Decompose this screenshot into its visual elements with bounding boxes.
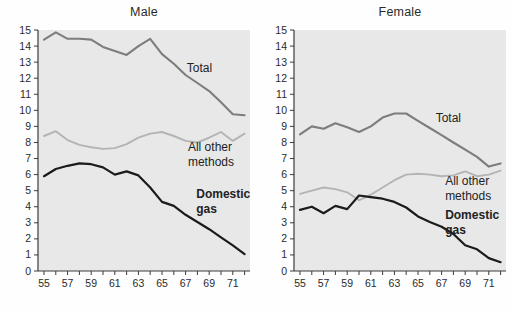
y-tick-label: 5 <box>25 184 31 196</box>
x-tick-label: 61 <box>109 277 121 289</box>
annotation-total: Total <box>436 111 461 125</box>
x-tick-label: 55 <box>294 277 306 289</box>
y-tick-label: 0 <box>25 265 31 277</box>
male-panel: Male 01234567891011121314155557596163656… <box>0 0 256 312</box>
y-tick-label: 8 <box>281 136 287 148</box>
y-tick-label: 14 <box>19 40 31 52</box>
y-tick-label: 15 <box>275 24 287 36</box>
x-tick-label: 63 <box>389 277 401 289</box>
y-tick-label: 4 <box>281 200 287 212</box>
annotation-all-other-methods: All othermethods <box>445 174 491 203</box>
x-tick-label: 65 <box>156 277 168 289</box>
x-tick-label: 63 <box>133 277 145 289</box>
y-tick-label: 3 <box>281 216 287 228</box>
x-tick-label: 67 <box>180 277 192 289</box>
y-tick-label: 12 <box>275 72 287 84</box>
y-tick-label: 8 <box>25 136 31 148</box>
x-tick-label: 69 <box>203 277 215 289</box>
y-tick-label: 13 <box>275 56 287 68</box>
x-tick-label: 57 <box>318 277 330 289</box>
y-tick-label: 15 <box>19 24 31 36</box>
x-tick-label: 69 <box>459 277 471 289</box>
x-tick-label: 59 <box>341 277 353 289</box>
y-tick-label: 9 <box>281 120 287 132</box>
plot-area <box>294 30 506 271</box>
y-tick-label: 9 <box>25 120 31 132</box>
y-tick-label: 10 <box>19 104 31 116</box>
suicide-rates-figure: Male 01234567891011121314155557596163656… <box>0 0 512 312</box>
y-tick-label: 2 <box>25 232 31 244</box>
x-tick-label: 55 <box>38 277 50 289</box>
y-tick-label: 0 <box>281 265 287 277</box>
female-panel: Female 012345678910111213141555575961636… <box>256 0 512 312</box>
y-tick-label: 11 <box>276 88 287 100</box>
x-tick-label: 57 <box>62 277 74 289</box>
x-tick-label: 61 <box>365 277 377 289</box>
y-tick-label: 12 <box>19 72 31 84</box>
x-tick-label: 67 <box>436 277 448 289</box>
female-chart-canvas: 0123456789101112131415555759616365676971… <box>256 0 512 312</box>
y-tick-label: 7 <box>25 152 31 164</box>
x-tick-label: 71 <box>483 277 495 289</box>
y-tick-label: 14 <box>275 40 287 52</box>
annotation-all-other-methods: All othermethods <box>188 140 234 169</box>
x-tick-label: 65 <box>412 277 424 289</box>
y-tick-label: 1 <box>281 248 287 260</box>
x-tick-label: 59 <box>85 277 97 289</box>
male-chart-canvas: 0123456789101112131415555759616365676971… <box>0 0 256 312</box>
y-tick-label: 1 <box>25 248 31 260</box>
y-tick-label: 2 <box>281 232 287 244</box>
y-tick-label: 4 <box>25 200 31 212</box>
y-tick-label: 10 <box>275 104 287 116</box>
x-tick-label: 71 <box>227 277 239 289</box>
y-tick-label: 13 <box>19 56 31 68</box>
y-tick-label: 7 <box>281 152 287 164</box>
y-tick-label: 5 <box>281 184 287 196</box>
annotation-total: Total <box>187 61 212 75</box>
y-tick-label: 11 <box>20 88 31 100</box>
y-tick-label: 6 <box>25 168 31 180</box>
y-tick-label: 3 <box>25 216 31 228</box>
y-tick-label: 6 <box>281 168 287 180</box>
